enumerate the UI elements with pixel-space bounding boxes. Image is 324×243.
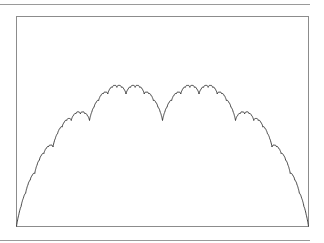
bottom-rule: [0, 240, 310, 241]
plot-frame: [17, 17, 309, 227]
takagi-curve: [17, 85, 309, 226]
chart-plot: [0, 0, 324, 243]
